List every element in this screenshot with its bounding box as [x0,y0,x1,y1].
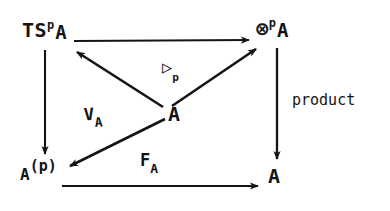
node-top-left: TSpA [22,20,66,40]
edge-label-triangle-p-subscript: p [172,71,179,84]
edge-center-to-top-left [77,52,163,107]
node-top-left-superscript: p [47,18,54,32]
node-center: A [168,104,181,124]
node-bottom-left-base: A [20,165,30,184]
edge-label-f-a: FA [140,152,158,172]
edge-label-v-a-subscript: A [94,115,103,131]
node-bottom-left-superscript: (p) [30,157,57,175]
edge-center-to-top-right [172,49,256,106]
tensor-product-icon: ⊗ [256,17,269,41]
node-top-right-superscript: p [269,16,276,30]
node-center-base: A [168,102,181,126]
node-top-right: ⊗pA [256,18,287,39]
edge-label-f-a-base: F [140,150,150,170]
node-top-left-trailing: A [55,21,66,43]
node-bottom-right-base: A [268,164,281,188]
node-top-left-base: TS [22,18,47,42]
edge-top-horizontal [74,40,249,41]
node-top-right-trailing: A [277,19,288,41]
commutative-diagram: TSpA ⊗pA A(p) A A product FA VA ▷p [0,0,390,211]
edge-label-v-a: VA [83,105,102,127]
triangle-right-icon: ▷ [162,57,172,77]
node-bottom-left: A(p) [20,162,57,183]
edge-label-f-a-subscript: A [150,161,158,176]
edge-label-triangle-p: ▷p [162,59,179,79]
edge-label-product: product [292,93,355,108]
node-bottom-right: A [268,166,281,186]
